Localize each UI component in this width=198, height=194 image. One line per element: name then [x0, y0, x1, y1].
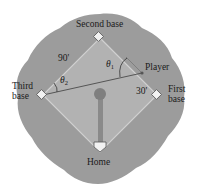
baseball-diamond-diagram: Second base 90' θ1 Player θ2 Third base … — [0, 0, 198, 194]
label-second-base: Second base — [76, 19, 123, 29]
label-player: Player — [145, 62, 169, 72]
third-base-label-line1: Third — [12, 81, 33, 91]
label-third-base: Third base — [12, 81, 33, 101]
pitcher-to-home-path — [98, 95, 103, 145]
label-theta1: θ1 — [106, 59, 114, 72]
player-marker — [140, 71, 143, 74]
label-side-length: 90' — [58, 53, 69, 63]
label-player-distance: 30' — [136, 86, 147, 96]
label-home: Home — [87, 157, 110, 167]
first-base-label-line2: base — [168, 94, 185, 104]
pitchers-mound — [94, 88, 106, 100]
theta2-subscript: 2 — [65, 79, 68, 86]
theta1-subscript: 1 — [111, 63, 114, 70]
first-base-label-line1: First — [168, 84, 185, 94]
third-base-label-line2: base — [12, 91, 33, 101]
label-first-base: First base — [168, 84, 185, 104]
label-theta2: θ2 — [60, 75, 68, 88]
